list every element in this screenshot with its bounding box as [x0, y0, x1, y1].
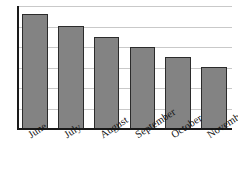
gridline	[17, 88, 232, 89]
y-axis-line	[17, 6, 19, 130]
gridline	[17, 68, 232, 69]
gridline	[17, 47, 232, 48]
x-axis-tick-labels: June July August September October Novem…	[17, 131, 232, 193]
bar-september	[130, 47, 156, 129]
gridline	[17, 109, 232, 110]
bar-chart-figure: June July August September October Novem…	[0, 0, 238, 195]
bar-august	[94, 37, 120, 129]
x-axis-line	[17, 128, 232, 130]
gridline	[17, 6, 232, 7]
plot-area	[17, 6, 232, 129]
bar-june	[22, 14, 48, 129]
bar-july	[58, 26, 84, 129]
gridline	[17, 27, 232, 28]
